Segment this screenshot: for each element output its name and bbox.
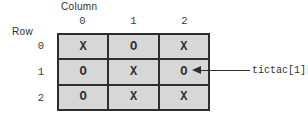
annotation-arrow-line (200, 70, 250, 71)
grid-cell-1-1: X (109, 60, 157, 83)
row-index-0: 0 (20, 39, 44, 53)
row-axis-label: Row (12, 26, 33, 37)
grid-cell-0-2: X (160, 35, 208, 58)
grid-cell-0-1: O (109, 35, 157, 58)
annotation-arrow-head-icon (192, 66, 201, 74)
grid-cell-2-0: O (59, 86, 107, 109)
annotation-label: tictac[1][2] (252, 65, 308, 76)
row-index-2: 2 (20, 91, 44, 105)
grid-cell-2-1: X (109, 86, 157, 109)
grid-cell-2-2: X (160, 86, 208, 109)
array-grid: X O X O X O O X X (57, 33, 210, 111)
column-index-0: 0 (57, 15, 108, 27)
column-index-1: 1 (108, 15, 159, 27)
tictac-2d-array-figure: Column 0 1 2 Row 0 1 2 X O X O X O O X X… (0, 0, 308, 119)
column-axis-label: Column (61, 1, 97, 12)
row-index-1: 1 (20, 65, 44, 79)
column-index-2: 2 (159, 15, 210, 27)
grid-cell-0-0: X (59, 35, 107, 58)
grid-cell-1-0: O (59, 60, 107, 83)
